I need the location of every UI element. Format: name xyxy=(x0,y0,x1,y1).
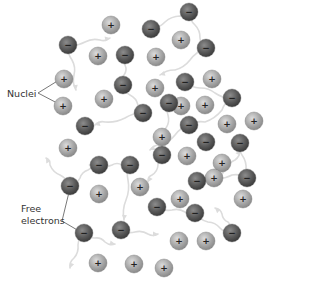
nucleus-plus-icon-symbol: + xyxy=(176,194,184,204)
nucleus-plus-icon-symbol: + xyxy=(208,74,216,84)
nucleus-plus-icon: + xyxy=(178,147,196,165)
nucleus-plus-icon-symbol: + xyxy=(250,116,258,126)
nucleus-plus-icon-symbol: + xyxy=(107,20,115,30)
diagram-canvas: +++++++++++++++++++++++++++ −−−−−−−−−−−−… xyxy=(0,0,327,283)
nucleus-plus-icon-symbol: + xyxy=(175,236,183,246)
nucleus-plus-icon-symbol: + xyxy=(64,143,72,153)
electron-minus-icon-symbol: − xyxy=(81,121,89,131)
nucleus-plus-icon-symbol: + xyxy=(201,100,209,110)
electron-minus-icon: − xyxy=(61,177,79,195)
nucleus-plus-icon-symbol: + xyxy=(183,151,191,161)
nuclei-label: Nuclei xyxy=(7,88,36,99)
nucleus-plus-icon: + xyxy=(170,232,188,250)
electron-minus-icon: − xyxy=(223,89,241,107)
arrowhead-icon xyxy=(148,176,153,182)
electron-minus-icon-symbol: − xyxy=(153,202,161,212)
electron-minus-icon-symbol: − xyxy=(64,40,72,50)
nucleus-plus-icon: + xyxy=(102,16,120,34)
nucleus-plus-icon: + xyxy=(147,48,165,66)
nucleus-plus-icon: + xyxy=(59,139,77,157)
electron-minus-icon-symbol: − xyxy=(117,225,125,235)
electron-minus-icon: − xyxy=(197,133,215,151)
electron-minus-icon: − xyxy=(59,36,77,54)
electron-minus-icon-symbol: − xyxy=(147,24,155,34)
nucleus-plus-icon-symbol: + xyxy=(218,158,226,168)
electron-minus-icon-symbol: − xyxy=(121,50,129,60)
nucleus-plus-icon-symbol: + xyxy=(223,119,231,129)
nucleus-plus-icon: + xyxy=(234,190,252,208)
nucleus-plus-icon: + xyxy=(95,90,113,108)
nucleus-plus-icon: + xyxy=(90,185,108,203)
nucleus-plus-icon-symbol: + xyxy=(95,189,103,199)
electron-minus-icon: − xyxy=(223,224,241,242)
electron-minus-icon: − xyxy=(148,198,166,216)
electron-minus-icon: − xyxy=(114,76,132,94)
electron-minus-icon-symbol: − xyxy=(236,138,244,148)
electron-minus-icon-symbol: − xyxy=(158,150,166,160)
electron-minus-icon: − xyxy=(180,116,198,134)
electron-minus-icon-symbol: − xyxy=(228,93,236,103)
nucleus-plus-icon-symbol: + xyxy=(60,74,68,84)
electron-minus-icon-symbol: − xyxy=(202,43,210,53)
nucleus-plus-icon-symbol: + xyxy=(151,83,159,93)
nucleus-plus-icon: + xyxy=(89,47,107,65)
electron-minus-icon: − xyxy=(180,3,198,21)
nucleus-plus-icon-symbol: + xyxy=(177,35,185,45)
electron-minus-icon: − xyxy=(75,224,93,242)
electron-minus-icon-symbol: − xyxy=(126,160,134,170)
electron-minus-icon-symbol: − xyxy=(228,228,236,238)
electron-minus-icon-symbol: − xyxy=(191,208,199,218)
electron-minus-icon: − xyxy=(90,156,108,174)
electron-minus-icon-symbol: − xyxy=(95,160,103,170)
nucleus-plus-icon-symbol: + xyxy=(136,182,144,192)
nucleus-plus-icon: + xyxy=(55,70,73,88)
electron-minus-icon: − xyxy=(231,134,249,152)
nucleus-plus-icon-symbol: + xyxy=(239,194,247,204)
nucleus-plus-icon: + xyxy=(89,254,107,272)
metallic-bonding-diagram: +++++++++++++++++++++++++++ −−−−−−−−−−−−… xyxy=(0,0,327,283)
nucleus-plus-icon-symbol: + xyxy=(59,101,67,111)
arrowhead-icon xyxy=(70,262,75,268)
nucleus-plus-icon-symbol: + xyxy=(152,52,160,62)
nucleus-plus-icon: + xyxy=(196,96,214,114)
electron-minus-icon: − xyxy=(121,156,139,174)
electron-minus-icon: − xyxy=(112,221,130,239)
nucleus-plus-icon: + xyxy=(245,112,263,130)
nucleus-plus-icon: + xyxy=(218,115,236,133)
free-electrons-label-line2: electrons xyxy=(21,215,65,226)
electron-minus-icon-symbol: − xyxy=(165,98,173,108)
electron-minus-icon: − xyxy=(153,146,171,164)
electron-minus-icon-symbol: − xyxy=(80,228,88,238)
nucleus-plus-icon: + xyxy=(155,259,173,277)
free-electrons-label-line1: Free xyxy=(21,203,41,214)
nucleus-plus-icon: + xyxy=(153,128,171,146)
electron-minus-icon-symbol: − xyxy=(66,181,74,191)
nucleus-plus-icon: + xyxy=(146,79,164,97)
nucleus-plus-icon-symbol: + xyxy=(94,51,102,61)
nucleus-plus-icon: + xyxy=(171,190,189,208)
electron-minus-icon: − xyxy=(134,104,152,122)
electron-minus-icon-symbol: − xyxy=(193,176,201,186)
nucleus-plus-icon-symbol: + xyxy=(210,173,218,183)
nucleus-plus-icon: + xyxy=(54,97,72,115)
electron-minus-icon: − xyxy=(176,73,194,91)
electron-minus-icon-symbol: − xyxy=(185,7,193,17)
nucleus-plus-icon: + xyxy=(125,255,143,273)
electron-minus-icon: − xyxy=(116,46,134,64)
nucleus-plus-icon-symbol: + xyxy=(130,259,138,269)
electron-minus-icon: − xyxy=(197,39,215,57)
electron-minus-icon: − xyxy=(160,94,178,112)
nucleus-plus-icon-symbol: + xyxy=(177,101,185,111)
electron-minus-icon-symbol: − xyxy=(202,137,210,147)
electron-minus-icon-symbol: − xyxy=(181,77,189,87)
electron-minus-icon-symbol: − xyxy=(139,108,147,118)
nucleus-plus-icon: + xyxy=(205,169,223,187)
electron-minus-icon: − xyxy=(238,169,256,187)
electron-minus-icon: − xyxy=(186,204,204,222)
nucleus-plus-icon-symbol: + xyxy=(94,258,102,268)
electron-minus-icon: − xyxy=(76,117,94,135)
nucleus-plus-icon: + xyxy=(203,70,221,88)
electron-minus-icon-symbol: − xyxy=(119,80,127,90)
nucleus-plus-icon-symbol: + xyxy=(158,132,166,142)
nucleus-plus-icon-symbol: + xyxy=(202,236,210,246)
